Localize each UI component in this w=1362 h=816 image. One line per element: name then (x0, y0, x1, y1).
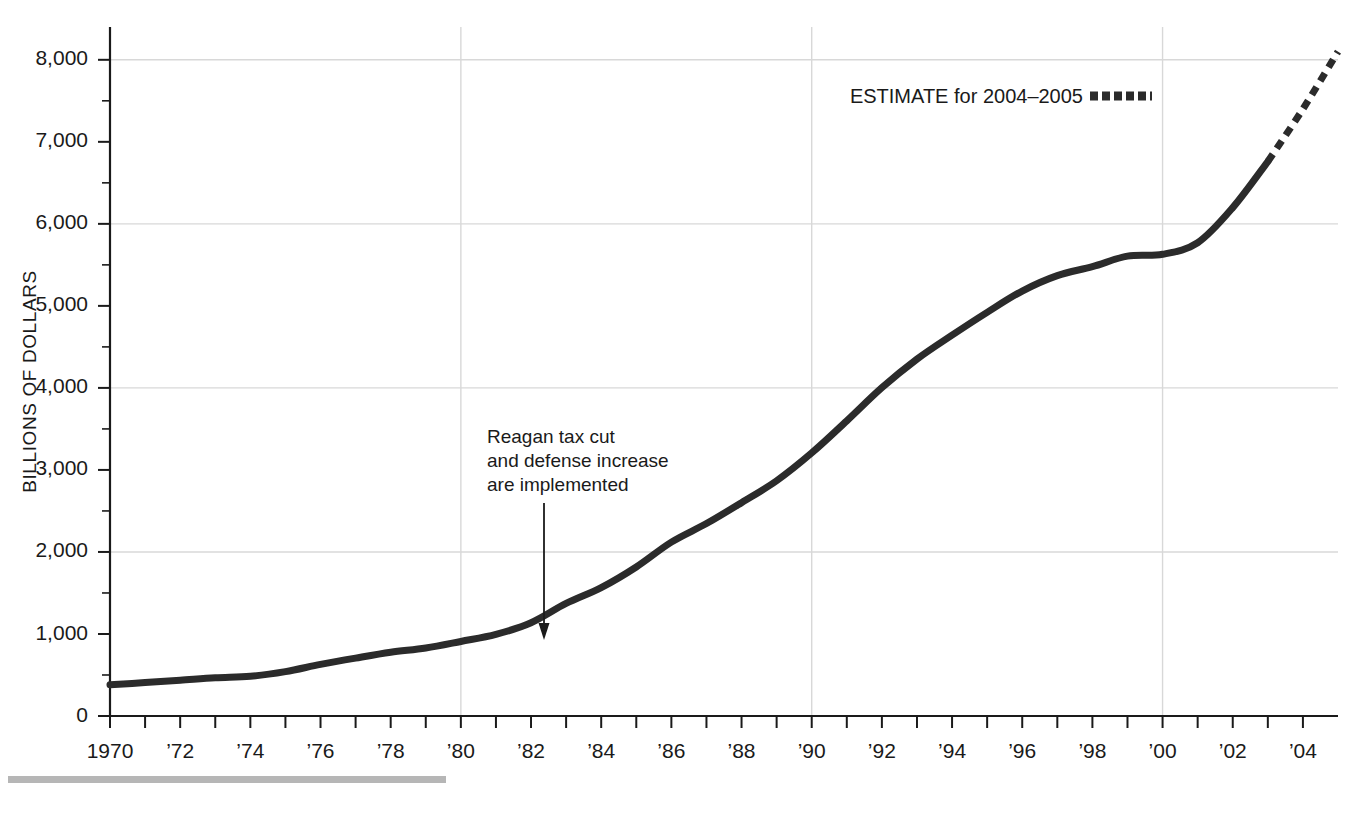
y-tick-label: 1,000 (35, 621, 88, 644)
x-tick-label: ’82 (517, 739, 545, 762)
x-tick-label: ’92 (868, 739, 896, 762)
x-tick-label: ’84 (587, 739, 615, 762)
y-tick-label: 0 (76, 703, 88, 726)
y-tick-label: 8,000 (35, 46, 88, 69)
national-debt-line-chart: 01,0002,0003,0004,0005,0006,0007,0008,00… (0, 0, 1362, 816)
y-tick-label: 4,000 (35, 374, 88, 397)
x-tick-label: ’88 (728, 739, 756, 762)
x-tick-label: ’74 (236, 739, 264, 762)
annotation-line-3: are implemented (487, 474, 629, 495)
x-tick-label: ’72 (166, 739, 194, 762)
chart-background (0, 0, 1362, 816)
x-tick-label: ’00 (1149, 739, 1177, 762)
y-tick-label: 7,000 (35, 128, 88, 151)
annotation-line-2: and defense increase (487, 450, 669, 471)
x-tick-label: ’80 (447, 739, 475, 762)
x-tick-label: ’02 (1219, 739, 1247, 762)
annotation-line-1: Reagan tax cut (487, 426, 616, 447)
x-tick-label: ’94 (938, 739, 966, 762)
y-tick-label: 3,000 (35, 456, 88, 479)
x-tick-label: ’96 (1008, 739, 1036, 762)
x-tick-label: ’76 (306, 739, 334, 762)
x-tick-label: ’78 (377, 739, 405, 762)
x-tick-label: ’86 (657, 739, 685, 762)
y-axis-title: BILLIONS OF DOLLARS (19, 270, 40, 493)
x-tick-label: 1970 (87, 739, 134, 762)
y-tick-labels: 01,0002,0003,0004,0005,0006,0007,0008,00… (35, 46, 88, 725)
y-tick-label: 6,000 (35, 210, 88, 233)
x-tick-label: ’98 (1078, 739, 1106, 762)
y-tick-label: 2,000 (35, 538, 88, 561)
x-tick-label: ’90 (798, 739, 826, 762)
footer-rule (8, 776, 446, 783)
chart-figure: 01,0002,0003,0004,0005,0006,0007,0008,00… (0, 0, 1362, 816)
legend-estimate-label: ESTIMATE for 2004–2005 (850, 85, 1083, 107)
x-tick-label: ’04 (1289, 739, 1317, 762)
y-tick-label: 5,000 (35, 292, 88, 315)
